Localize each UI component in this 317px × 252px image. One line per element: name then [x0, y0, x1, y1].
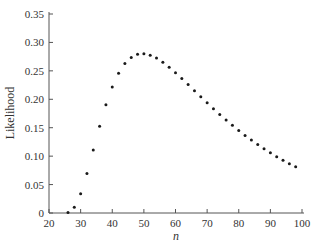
x-tick-label: 50 — [138, 217, 150, 229]
y-axis: 00.050.100.150.200.250.300.35 — [25, 8, 53, 219]
data-point — [269, 151, 272, 154]
data-point — [149, 54, 152, 57]
data-point — [199, 95, 202, 98]
data-point — [79, 192, 82, 195]
data-point — [237, 129, 240, 132]
likelihood-chart: 00.050.100.150.200.250.300.35 2030405060… — [0, 0, 317, 252]
data-point — [225, 118, 228, 121]
data-point — [212, 107, 215, 110]
x-tick-label: 30 — [75, 217, 87, 229]
data-point — [294, 165, 297, 168]
data-point — [73, 206, 76, 209]
x-tick-label: 80 — [233, 217, 245, 229]
data-point — [142, 52, 145, 55]
data-point — [136, 53, 139, 56]
x-tick-label: 40 — [107, 217, 119, 229]
data-point — [282, 159, 285, 162]
x-tick-label: 100 — [294, 217, 311, 229]
data-point — [244, 134, 247, 137]
x-axis: 2030405060708090100 — [44, 209, 311, 229]
data-point — [180, 77, 183, 80]
data-point — [123, 62, 126, 65]
data-point — [111, 86, 114, 89]
data-point — [85, 172, 88, 175]
data-point — [66, 211, 69, 214]
x-tick-label: 60 — [170, 217, 182, 229]
y-tick-label: 0.05 — [25, 179, 45, 191]
x-tick-label: 90 — [265, 217, 277, 229]
y-tick-label: 0.20 — [25, 93, 45, 105]
data-point — [117, 72, 120, 75]
y-tick-label: 0.25 — [25, 65, 45, 77]
y-tick-label: 0.10 — [25, 150, 45, 162]
data-point — [174, 71, 177, 74]
y-tick-label: 0.30 — [25, 36, 45, 48]
data-point — [193, 89, 196, 92]
data-point — [187, 83, 190, 86]
data-point — [206, 101, 209, 104]
data-point — [104, 103, 107, 106]
data-point — [92, 148, 95, 151]
data-points — [66, 52, 297, 214]
data-point — [275, 155, 278, 158]
y-axis-title: Likelihood — [3, 87, 17, 140]
data-point — [168, 66, 171, 69]
x-tick-label: 20 — [44, 217, 56, 229]
y-tick-label: 0.35 — [25, 8, 45, 20]
data-point — [130, 56, 133, 59]
data-point — [263, 147, 266, 150]
data-point — [155, 57, 158, 60]
x-axis-title: n — [173, 229, 179, 243]
data-point — [218, 113, 221, 116]
y-tick-label: 0.15 — [25, 122, 45, 134]
data-point — [250, 139, 253, 142]
data-point — [161, 61, 164, 64]
x-tick-label: 70 — [202, 217, 214, 229]
data-point — [288, 162, 291, 165]
data-point — [98, 125, 101, 128]
data-point — [256, 143, 259, 146]
data-point — [231, 124, 234, 127]
